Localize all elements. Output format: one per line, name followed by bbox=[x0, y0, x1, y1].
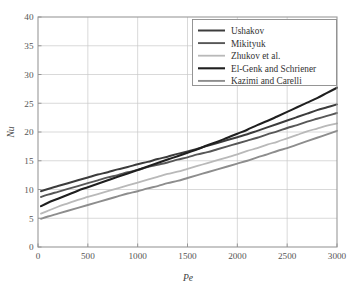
tick-label-y: 35 bbox=[24, 41, 34, 51]
legend-label-1: Mikityuk bbox=[231, 39, 266, 49]
tick-label-x: 0 bbox=[36, 251, 41, 261]
legend-label-4: Kazimi and Carelli bbox=[231, 76, 302, 86]
tick-label-y: 40 bbox=[24, 12, 34, 22]
chart-legend: UshakovMikityukZhukov et al.El-Genk and … bbox=[193, 20, 337, 87]
tick-label-y: 15 bbox=[24, 156, 34, 166]
chart-figure: 0510152025303540 05001000150020002500300… bbox=[0, 0, 352, 287]
line-chart-canvas: 0510152025303540 05001000150020002500300… bbox=[0, 0, 352, 287]
tick-label-x: 2000 bbox=[228, 251, 247, 261]
tick-label-x: 500 bbox=[81, 251, 95, 261]
tick-label-x: 1500 bbox=[178, 251, 197, 261]
tick-label-x: 1000 bbox=[128, 251, 147, 261]
tick-label-y: 5 bbox=[29, 214, 34, 224]
legend-label-0: Ushakov bbox=[231, 26, 264, 36]
tick-label-y: 10 bbox=[24, 185, 34, 195]
legend-label-3: El-Genk and Schriener bbox=[231, 64, 317, 74]
y-axis-title: Nu bbox=[5, 126, 16, 138]
tick-label-y: 30 bbox=[24, 70, 34, 80]
tick-label-y: 0 bbox=[29, 242, 34, 252]
legend-label-2: Zhukov et al. bbox=[231, 51, 280, 61]
tick-label-x: 3000 bbox=[328, 251, 347, 261]
tick-label-y: 20 bbox=[24, 127, 34, 137]
x-tick-labels: 050010001500200025003000 bbox=[36, 251, 347, 261]
y-tick-labels: 0510152025303540 bbox=[24, 12, 34, 252]
tick-label-y: 25 bbox=[24, 99, 34, 109]
x-axis-title: Pe bbox=[182, 272, 194, 283]
tick-label-x: 2500 bbox=[278, 251, 297, 261]
